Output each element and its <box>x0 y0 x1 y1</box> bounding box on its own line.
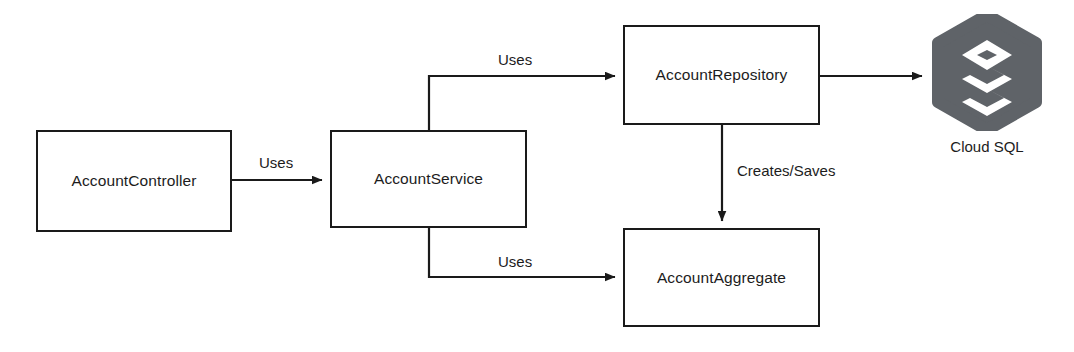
connector-service-to-repository <box>429 76 615 130</box>
node-cloud-sql[interactable]: Cloud SQL <box>930 14 1044 156</box>
edge-label-service-to-repository: Uses <box>494 52 536 69</box>
node-account-aggregate[interactable]: AccountAggregate <box>623 228 820 327</box>
edge-label-repository-to-aggregate: Creates/Saves <box>733 163 839 180</box>
edge-label-controller-to-service: Uses <box>255 155 297 172</box>
node-label-account-controller: AccountController <box>72 172 197 189</box>
edge-label-text: Uses <box>259 154 293 171</box>
edge-label-text: Uses <box>498 253 532 270</box>
node-account-controller[interactable]: AccountController <box>36 130 232 232</box>
cloud-sql-caption: Cloud SQL <box>950 139 1023 156</box>
edge-label-text: Uses <box>498 51 532 68</box>
node-label-account-service: AccountService <box>374 170 483 187</box>
node-account-repository[interactable]: AccountRepository <box>623 25 820 125</box>
cloud-sql-layers-icon <box>930 14 1044 131</box>
edge-label-service-to-aggregate: Uses <box>494 254 536 271</box>
node-label-account-aggregate: AccountAggregate <box>657 269 786 286</box>
edge-label-text: Creates/Saves <box>737 162 835 179</box>
node-label-account-repository: AccountRepository <box>656 66 788 83</box>
node-account-service[interactable]: AccountService <box>330 130 527 228</box>
diagram-canvas: AccountController AccountService Account… <box>0 0 1074 352</box>
